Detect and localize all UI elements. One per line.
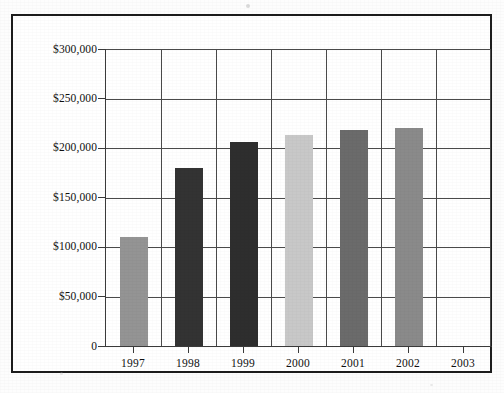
- bar-2002[interactable]: [395, 128, 423, 346]
- x-tick-label-1999: 1999: [213, 357, 273, 369]
- bar-2000[interactable]: [285, 135, 313, 346]
- gridline-horizontal-250000: [106, 99, 491, 100]
- x-axis-tick-2001: [353, 347, 354, 353]
- gridline-vertical-5: [381, 49, 382, 346]
- x-tick-label-2002: 2002: [378, 357, 438, 369]
- x-tick-label-2001: 2001: [323, 357, 383, 369]
- gridline-horizontal-300000: [106, 49, 491, 50]
- gridline-vertical-right-edge: [490, 49, 491, 346]
- chart-figure-frame: $300,000 $250,000 $200,000 $150,000 $100…: [11, 14, 492, 373]
- x-axis-tick-1998: [188, 347, 189, 353]
- x-axis-tick-2002: [408, 347, 409, 353]
- x-axis-tick-2003: [463, 347, 464, 353]
- gridline-vertical-2: [216, 49, 217, 346]
- y-axis-tick-labels: $300,000 $250,000 $200,000 $150,000 $100…: [21, 16, 97, 393]
- x-axis-tick-2000: [298, 347, 299, 353]
- scan-speck: [430, 384, 433, 386]
- x-tick-label-1998: 1998: [158, 357, 218, 369]
- gridline-vertical-1: [161, 49, 162, 346]
- x-axis-tick-1999: [243, 347, 244, 353]
- y-tick-label-150000: $150,000: [23, 191, 97, 203]
- bar-1998[interactable]: [175, 168, 203, 346]
- x-tick-label-2000: 2000: [268, 357, 328, 369]
- plot-area: [106, 49, 491, 346]
- y-tick-label-200000: $200,000: [23, 141, 97, 153]
- y-tick-label-50000: $50,000: [23, 290, 97, 302]
- x-axis-tick-1997: [133, 347, 134, 353]
- gridline-vertical-4: [326, 49, 327, 346]
- bar-2001[interactable]: [340, 130, 368, 346]
- y-tick-label-300000: $300,000: [23, 43, 97, 55]
- x-tick-label-1997: 1997: [103, 357, 163, 369]
- y-tick-label-100000: $100,000: [23, 240, 97, 252]
- bar-1997[interactable]: [120, 237, 148, 346]
- bar-1999[interactable]: [230, 142, 258, 346]
- gridline-vertical-6: [436, 49, 437, 346]
- y-tick-label-0: 0: [23, 340, 97, 352]
- y-tick-label-250000: $250,000: [23, 92, 97, 104]
- x-axis-line: [106, 346, 492, 347]
- gridline-vertical-3: [271, 49, 272, 346]
- scanned-page: $300,000 $250,000 $200,000 $150,000 $100…: [0, 0, 504, 393]
- scan-speck: [246, 4, 250, 8]
- x-tick-label-2003: 2003: [433, 357, 493, 369]
- scan-speck: [60, 372, 63, 375]
